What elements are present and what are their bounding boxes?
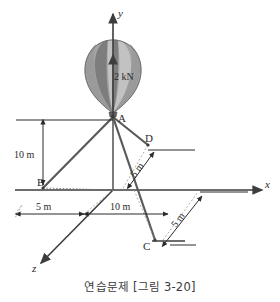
point-c-label: C	[143, 240, 150, 252]
point-d-label: D	[145, 132, 153, 144]
x-axis-label: x	[264, 178, 270, 190]
dim-depth-c-label: 5 m	[169, 210, 187, 229]
figure-caption: 연습문제 [그림 3-20]	[0, 278, 280, 294]
statics-diagram: y x z 2 kN 10 m 5 m 10 m 5	[0, 0, 280, 272]
cable-ab	[43, 117, 113, 188]
y-axis-label: y	[117, 7, 123, 19]
point-a-label: A	[118, 112, 126, 124]
force-label: 2 kN	[114, 71, 134, 82]
dim-height-label: 10 m	[14, 149, 35, 160]
ground-guide-left	[15, 205, 22, 214]
point-b-label: B	[37, 176, 44, 188]
z-axis-label: z	[31, 262, 37, 272]
z-axis	[41, 190, 113, 263]
projection-c	[134, 190, 155, 240]
node-a	[111, 115, 115, 119]
dim-depth-d-label: 5 m	[128, 160, 146, 179]
dim-span-x-label: 10 m	[110, 201, 131, 212]
figure-container: y x z 2 kN 10 m 5 m 10 m 5	[0, 0, 280, 302]
dim-offset-b-label: 5 m	[36, 201, 52, 212]
